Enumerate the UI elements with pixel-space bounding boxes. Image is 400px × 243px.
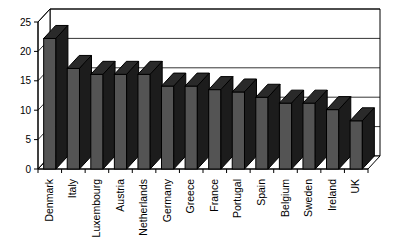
bar-side-face [339,97,351,169]
bar-germany [162,73,186,169]
chart-canvas: 0510152025 DenmarkItalyLuxembourgAustria… [0,0,400,243]
category-label-spain: Spain [255,179,267,206]
bar-ireland [327,97,351,169]
category-label-belgium: Belgium [279,179,291,217]
bar-side-face [103,61,115,169]
bar-front-face [44,38,56,169]
bar-belgium [279,90,303,169]
bar-side-face [150,61,162,169]
bar-side-face [56,25,68,169]
bar-side-face [79,55,91,169]
y-tick-label-15: 15 [20,75,32,86]
bar-sweden [303,90,327,169]
bar-front-face [91,74,103,169]
category-label-france: France [208,179,220,212]
bar-side-face [244,79,256,169]
bar-side-face [315,90,327,169]
category-label-luxembourg: Luxembourg [90,179,102,238]
bar-front-face [303,103,315,169]
bar-uk [350,108,374,169]
bar-front-face [209,90,221,169]
bar-greece [185,73,209,169]
category-label-sweden: Sweden [302,179,314,217]
category-label-uk: UK [349,179,361,194]
y-axis-tick-labels: 0510152025 [20,17,32,175]
x-axis-tick-marks [38,169,368,173]
bar-front-face [138,74,150,169]
category-label-austria: Austria [114,179,126,212]
bar-front-face [256,97,268,169]
bar-front-face [162,86,174,169]
bar-front-face [185,86,197,169]
bar-side-face [292,90,304,169]
bar-luxembourg [91,61,115,169]
y-tick-label-0: 0 [25,164,31,175]
y-tick-label-5: 5 [25,134,31,145]
bar-netherlands [138,61,162,169]
bar-front-face [279,103,291,169]
category-label-denmark: Denmark [43,178,55,221]
bar-side-face [268,84,280,169]
x-axis-category-labels: DenmarkItalyLuxembourgAustriaNetherlands… [43,178,361,237]
bar-italy [67,55,91,169]
y-axis-tick-marks [34,22,38,169]
category-label-greece: Greece [184,179,196,214]
bar-spain [256,84,280,169]
bar-side-face [221,77,233,169]
bar-side-face [127,61,139,169]
category-label-ireland: Ireland [326,179,338,211]
y-tick-label-25: 25 [20,17,32,28]
bar-front-face [114,74,126,169]
y-tick-label-10: 10 [20,105,32,116]
bar-front-face [327,110,339,169]
bar-front-face [350,121,362,169]
category-label-netherlands: Netherlands [137,179,149,236]
bar-chart: 0510152025 DenmarkItalyLuxembourgAustria… [0,0,400,243]
category-label-italy: Italy [66,178,78,198]
category-label-germany: Germany [161,178,173,222]
bar-portugal [232,79,256,169]
bar-front-face [67,68,79,169]
category-label-portugal: Portugal [231,179,243,218]
bar-france [209,77,233,169]
bar-side-face [197,73,209,169]
bar-side-face [174,73,186,169]
bar-denmark [44,25,68,169]
bar-front-face [232,92,244,169]
bar-austria [114,61,138,169]
y-tick-label-20: 20 [20,46,32,57]
